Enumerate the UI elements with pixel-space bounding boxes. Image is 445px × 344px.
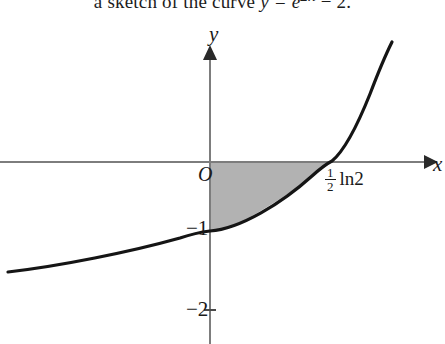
fraction-denominator: 2 (325, 179, 336, 193)
fraction-numerator: 1 (325, 166, 336, 179)
origin-label: O (198, 163, 212, 186)
y-tick-label-neg2: −2 (186, 297, 208, 322)
curve-sketch-figure: a sketch of the curve y = e2x − 2. y x O… (0, 0, 445, 344)
x-axis-label: x (433, 152, 442, 177)
y-axis-label: y (209, 22, 218, 47)
x-tick-label-half-ln2: 1 2 ln2 (325, 165, 364, 193)
ln-two-text: ln2 (340, 168, 364, 190)
fraction-one-half: 1 2 (325, 166, 336, 194)
y-tick-label-neg1: −1 (186, 216, 208, 241)
y-axis-arrowhead-icon (203, 45, 217, 60)
plot-canvas (0, 0, 445, 344)
